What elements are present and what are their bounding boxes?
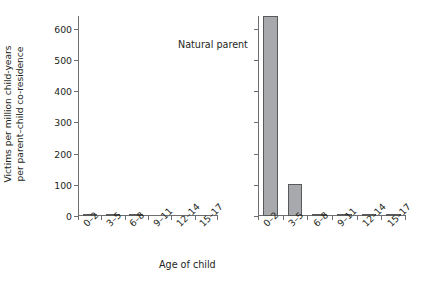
figure-bar-chart-child-victimization: Victims per million child-years per pare… <box>0 0 445 286</box>
y-tick-mark <box>254 185 258 186</box>
y-tick-label: 0 <box>66 211 72 222</box>
y-tick-mark <box>254 122 258 123</box>
y-tick-label: 300 <box>54 117 72 128</box>
y-tick-label: 400 <box>54 86 72 97</box>
x-tick-label: 0–2 <box>81 209 100 228</box>
y-tick-label: 600 <box>54 23 72 34</box>
y-axis-line-step <box>258 16 259 216</box>
x-axis-title-natural: Age of child <box>159 259 216 270</box>
x-tick-mark <box>101 216 102 220</box>
x-tick-mark <box>357 216 358 220</box>
x-tick-label: 9–11 <box>335 205 359 229</box>
y-axis-title: Victims per million child-years per pare… <box>2 0 48 232</box>
y-tick-mark <box>254 91 258 92</box>
x-tick-mark <box>332 216 333 220</box>
x-tick-mark <box>195 216 196 220</box>
y-tick-mark <box>74 60 78 61</box>
y-tick-mark <box>254 154 258 155</box>
y-tick-mark <box>74 91 78 92</box>
x-tick-mark <box>217 216 218 220</box>
x-tick-mark <box>381 216 382 220</box>
y-axis-line-natural <box>78 16 79 216</box>
y-axis-title-line-2: per parent–child co-residence <box>14 0 26 228</box>
panel-label-natural-parent: Natural parent <box>178 39 248 50</box>
panel-step-parent: 0–23–56–89–1112–1415–17 Step-parent Age … <box>248 0 445 286</box>
x-tick-mark <box>283 216 284 220</box>
x-tick-label: 6–8 <box>127 209 146 228</box>
panel-natural-parent: 01002003004005006000–23–56–89–1112–1415–… <box>48 0 228 286</box>
y-tick-mark <box>74 29 78 30</box>
x-tick-mark <box>258 216 259 220</box>
x-tick-mark <box>148 216 149 220</box>
y-tick-mark <box>254 29 258 30</box>
y-tick-mark <box>74 122 78 123</box>
plot-area-step-parent: 0–23–56–89–1112–1415–17 <box>258 16 406 216</box>
x-tick-mark <box>405 216 406 220</box>
y-tick-label: 100 <box>54 179 72 190</box>
bar-step-parent-0 <box>263 16 278 216</box>
y-tick-label: 500 <box>54 54 72 65</box>
y-axis-title-line-1: Victims per million child-years <box>2 0 14 228</box>
x-tick-mark <box>171 216 172 220</box>
y-tick-label: 200 <box>54 148 72 159</box>
y-tick-mark <box>74 154 78 155</box>
x-tick-mark <box>307 216 308 220</box>
y-tick-mark <box>74 185 78 186</box>
x-tick-label: 15–17 <box>197 201 225 229</box>
x-tick-label: 3–5 <box>104 209 123 228</box>
x-tick-label: 6–8 <box>311 209 330 228</box>
y-tick-mark <box>254 60 258 61</box>
x-tick-mark <box>78 216 79 220</box>
x-tick-mark <box>125 216 126 220</box>
